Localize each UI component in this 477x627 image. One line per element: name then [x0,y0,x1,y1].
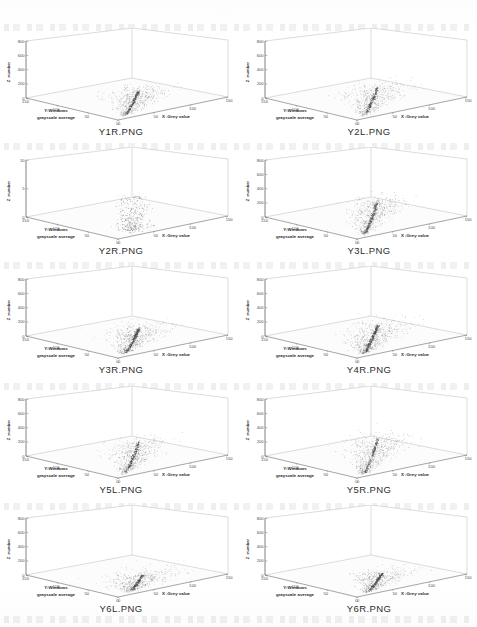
z-axis-label: Z :number [245,419,250,440]
x-tick-label: 100 [189,464,197,469]
z-tick-label: 600 [257,172,265,177]
axes-3d: 0200400600800050100150050100150Z :number… [239,386,477,486]
z-axis-label: Z :number [6,419,11,440]
plot-cell[interactable]: 0200400600800050100150050100150Z :number… [239,147,477,266]
z-tick-label: 400 [257,305,265,310]
y-tick-label: 50 [85,352,90,357]
plot-cell[interactable]: 0200400600800050100150050100150Z :number… [239,28,477,147]
y-axis-label-line2: grayscale average [37,234,76,239]
y-axis-label-line1: Y:Windows [44,585,68,590]
z-tick-label: 600 [257,291,265,296]
y-tick-label: 150 [22,218,30,223]
z-tick-label: 800 [257,397,265,402]
axes-3d: 0200400600800050100150050100150Z :number… [239,505,477,605]
plot-title: Y4R.PNG [239,364,477,375]
plot-cell[interactable]: 0200400600800050100150050100150Z :number… [0,28,238,147]
y-axis-label-line1: Y:Windows [44,346,68,351]
scanned-page: 0200400600800050100150050100150Z :number… [0,0,477,627]
y-axis-label-line2: grayscale average [276,353,315,358]
x-axis-label: X :Grey value [162,233,191,238]
x-tick-label: 50 [154,591,159,596]
plot-cell[interactable]: 0200400600800050100150050100150Z :number… [0,505,238,624]
y-axis-label-line2: grayscale average [37,353,76,358]
plot-cell[interactable]: 0200400600800050100150050100150Z :number… [239,505,477,624]
y-tick-label: 50 [324,352,329,357]
axes-3d: 0200400600800050100150050100150Z :number… [0,386,238,486]
plot-cell[interactable]: 0510050100150050100150Z :numberY:Windows… [0,147,238,266]
z-tick-label: 800 [18,397,26,402]
x-tick-label: 100 [189,106,197,111]
x-tick-label: 100 [189,344,197,349]
y-axis-label-line2: grayscale average [276,592,315,597]
z-axis-label: Z :number [6,180,11,201]
x-axis-label: X :Grey value [162,114,191,119]
x-tick-label: 50 [393,591,398,596]
x-axis-label: X :Grey value [162,472,191,477]
axes-3d: 0200400600800050100150050100150Z :number… [239,147,477,247]
plot-axes-container: 0200400600800050100150050100150Z :number… [0,28,238,128]
axes-3d: 0200400600800050100150050100150Z :number… [239,28,477,128]
x-tick-label: 100 [189,583,197,588]
plot-title: Y3L.PNG [239,245,477,256]
y-tick-label: 150 [22,576,30,581]
x-tick-label: 150 [226,575,234,580]
plot-title: Y6R.PNG [239,603,477,614]
z-tick-label: 200 [18,439,26,444]
x-tick-label: 100 [428,583,436,588]
plot-cell[interactable]: 0200400600800050100150050100150Z :number… [0,386,238,505]
z-tick-label: 10 [20,158,25,163]
z-tick-label: 200 [257,439,265,444]
z-tick-label: 200 [257,558,265,563]
plot-title: Y6L.PNG [0,603,238,614]
z-tick-label: 200 [257,319,265,324]
axes-3d: 0200400600800050100150050100150Z :number… [0,28,238,128]
plot-axes-container: 0200400600800050100150050100150Z :number… [239,147,477,247]
z-tick-label: 400 [18,305,26,310]
z-axis-label: Z :number [6,299,11,320]
y-tick-label: 50 [85,591,90,596]
y-tick-label: 150 [261,218,269,223]
y-tick-label: 150 [261,576,269,581]
x-axis-label: X :Grey value [401,352,430,357]
z-tick-label: 600 [257,411,265,416]
y-tick-label: 150 [22,99,30,104]
z-tick-label: 600 [257,530,265,535]
x-tick-label: 50 [154,472,159,477]
x-tick-label: 150 [226,98,234,103]
y-tick-label: 50 [324,233,329,238]
plot-cell[interactable]: 0200400600800050100150050100150Z :number… [239,386,477,505]
x-tick-label: 150 [465,336,473,341]
plot-axes-container: 0200400600800050100150050100150Z :number… [239,505,477,605]
x-axis-label: X :Grey value [401,472,430,477]
x-tick-label: 50 [393,233,398,238]
z-axis-label: Z :number [245,180,250,201]
z-axis-label: Z :number [245,538,250,559]
x-tick-label: 50 [154,233,159,238]
y-axis-label-line2: grayscale average [276,473,315,478]
y-axis-label-line1: Y:Windows [283,466,307,471]
x-axis-label: X :Grey value [401,233,430,238]
z-tick-label: 800 [257,158,265,163]
y-axis-label-line2: grayscale average [37,115,76,120]
x-tick-label: 50 [393,352,398,357]
x-tick-label: 50 [393,114,398,119]
z-tick-label: 800 [257,39,265,44]
plot-axes-container: 0200400600800050100150050100150Z :number… [239,266,477,366]
y-axis-label-line2: grayscale average [276,234,315,239]
plot-cell[interactable]: 0200400600800050100150050100150Z :number… [239,266,477,385]
z-tick-label: 800 [18,516,26,521]
y-tick-label: 50 [324,472,329,477]
x-tick-label: 150 [226,217,234,222]
x-tick-label: 150 [226,336,234,341]
y-tick-label: 150 [261,337,269,342]
x-tick-label: 50 [154,352,159,357]
x-axis-label: X :Grey value [162,591,191,596]
z-tick-label: 200 [257,200,265,205]
z-tick-label: 800 [18,39,26,44]
y-axis-label-line1: Y:Windows [44,108,68,113]
z-tick-label: 400 [257,425,265,430]
y-axis-label-line1: Y:Windows [44,466,68,471]
plot-title: Y5L.PNG [0,484,238,495]
z-tick-label: 800 [257,516,265,521]
plot-cell[interactable]: 0200400600800050100150050100150Z :number… [0,266,238,385]
